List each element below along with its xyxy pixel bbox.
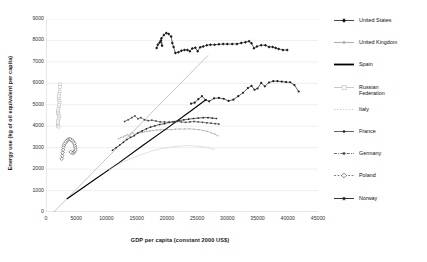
legend-marker-icon [332, 194, 356, 203]
data-point [174, 51, 177, 54]
y-tick-label: 8000 [18, 37, 44, 42]
data-point [168, 122, 170, 124]
data-point [236, 42, 239, 45]
y-tick-label: 4000 [18, 123, 44, 128]
data-point [293, 84, 295, 86]
data-point [286, 49, 289, 52]
data-point [164, 121, 166, 123]
data-point [130, 137, 132, 139]
x-tick-label: 40000 [271, 216, 305, 221]
legend-label: France [359, 127, 376, 134]
series-germany [124, 115, 220, 125]
x-tick-label: 10000 [89, 216, 123, 221]
data-point [145, 128, 147, 130]
legend-item-poland[interactable]: Poland [332, 171, 426, 180]
data-point [137, 118, 139, 120]
data-point [124, 135, 126, 137]
data-point [268, 81, 270, 83]
plot-area [46, 19, 318, 212]
data-point [197, 117, 199, 119]
legend-item-spain[interactable]: Spain [332, 60, 426, 69]
y-tick-label: 3000 [18, 145, 44, 150]
data-point [155, 46, 158, 49]
legend-label: Italy [359, 105, 369, 112]
data-point [152, 130, 154, 132]
data-point [159, 124, 161, 126]
data-point [59, 83, 62, 86]
data-point [123, 136, 125, 138]
data-point [213, 97, 215, 99]
data-point [177, 51, 180, 54]
y-tick-label: 2000 [18, 166, 44, 171]
data-point [222, 43, 225, 46]
data-point [172, 45, 175, 48]
x-tick-label: 25000 [180, 216, 214, 221]
y-tick-label: 0 [18, 209, 44, 214]
data-point [126, 139, 128, 141]
data-point [186, 48, 189, 51]
legend-label: Germany [359, 149, 381, 156]
chart-legend: United StatesUnited KingdomSpainRussian … [332, 16, 426, 216]
data-point [119, 144, 121, 146]
legend-marker-icon [332, 60, 356, 69]
data-point [164, 123, 166, 125]
data-point [199, 46, 202, 49]
data-point [159, 121, 161, 123]
data-point [147, 120, 149, 122]
data-point [181, 121, 183, 123]
y-axis-tick-labels: 0100020003000400050006000700080009000 [16, 19, 44, 212]
data-point [281, 48, 284, 51]
data-point [237, 95, 239, 97]
data-point [202, 45, 205, 48]
data-point [132, 132, 134, 134]
legend-item-united-kingdom[interactable]: United Kingdom [332, 38, 426, 47]
data-point [218, 97, 220, 99]
data-point [133, 135, 135, 137]
legend-item-italy[interactable]: Italy [332, 105, 426, 114]
data-point [281, 81, 283, 83]
data-point [217, 135, 219, 137]
x-tick-label: 35000 [241, 216, 275, 221]
data-point [198, 121, 200, 123]
y-tick-label: 7000 [18, 59, 44, 64]
legend-item-france[interactable]: France [332, 127, 426, 136]
x-tick-label: 0 [29, 216, 63, 221]
data-point [155, 120, 157, 122]
data-point [197, 98, 199, 100]
legend-item-united-states[interactable]: United States [332, 16, 426, 25]
data-point [285, 81, 287, 83]
data-point [149, 130, 151, 132]
legend-item-germany[interactable]: Germany [332, 149, 426, 158]
data-point [185, 122, 187, 124]
data-point [141, 132, 143, 134]
data-point [124, 121, 126, 123]
series-line [157, 33, 288, 53]
data-point [120, 137, 122, 139]
series-spain [67, 99, 206, 198]
data-point [210, 122, 212, 124]
series-norway [190, 80, 300, 105]
data-point [59, 86, 62, 89]
legend-item-norway[interactable]: Norway [332, 194, 426, 203]
series-united-kingdom [118, 128, 219, 139]
data-point [115, 147, 117, 149]
legend-marker-icon [332, 149, 356, 158]
legend-item-russian-federation[interactable]: Russian Federation [332, 83, 426, 96]
data-point [171, 42, 174, 45]
data-point [271, 45, 274, 48]
data-point [189, 121, 191, 123]
data-point [190, 103, 192, 105]
data-point [207, 131, 209, 133]
legend-label: United Kingdom [359, 38, 397, 45]
legend-marker-icon [332, 83, 356, 92]
data-point [159, 129, 161, 131]
data-point [178, 120, 180, 122]
data-point [244, 41, 247, 44]
data-point [112, 149, 114, 151]
data-point [256, 87, 258, 89]
series-line [191, 81, 299, 104]
plot-canvas [46, 19, 318, 212]
data-point [260, 44, 263, 47]
data-point [188, 118, 190, 120]
data-point [175, 128, 177, 130]
